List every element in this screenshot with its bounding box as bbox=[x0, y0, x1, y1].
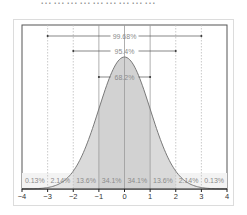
band-label: 0.13% bbox=[25, 177, 45, 184]
x-tick-label: −3 bbox=[43, 192, 52, 201]
span-label: 95.4% bbox=[115, 48, 135, 55]
x-tick-label: 0 bbox=[122, 192, 126, 201]
x-tick-label: −2 bbox=[69, 192, 78, 201]
span-endpoint bbox=[175, 50, 177, 52]
span-endpoint bbox=[72, 50, 74, 52]
band-label: 2.14% bbox=[179, 177, 199, 184]
span-endpoint bbox=[47, 35, 49, 37]
span-endpoint bbox=[200, 35, 202, 37]
x-tick-label: 4 bbox=[225, 192, 229, 201]
normal-distribution-chart: 99.68%95.4%68.2%0.13%2.14%13.6%34.1%34.1… bbox=[0, 0, 247, 215]
span-endpoint bbox=[98, 76, 100, 78]
x-tick-label: −1 bbox=[95, 192, 104, 201]
band-label: 2.14% bbox=[51, 177, 71, 184]
x-tick-label: 1 bbox=[148, 192, 152, 201]
band-label: 13.6% bbox=[153, 177, 173, 184]
band-label: 0.13% bbox=[204, 177, 224, 184]
x-tick-label: −4 bbox=[18, 192, 27, 201]
x-tick-label: 2 bbox=[174, 192, 178, 201]
band-label: 34.1% bbox=[127, 177, 147, 184]
band-label: 34.1% bbox=[102, 177, 122, 184]
span-endpoint bbox=[149, 76, 151, 78]
span-label: 68.2% bbox=[115, 74, 135, 81]
x-tick-label: 3 bbox=[199, 192, 203, 201]
band-label: 13.6% bbox=[76, 177, 96, 184]
span-label: 99.68% bbox=[113, 33, 137, 40]
